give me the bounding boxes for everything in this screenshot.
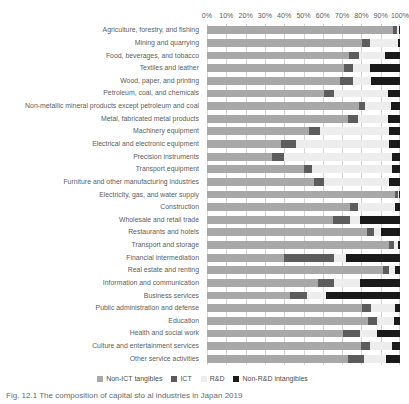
bar-segment — [371, 304, 395, 312]
legend-swatch-icon — [233, 376, 239, 382]
bar-segment — [362, 39, 370, 47]
category-label: Culture and entertainment services — [92, 342, 199, 350]
category-label: Furniture and other manufacturing indust… — [63, 178, 199, 186]
bar-row — [207, 77, 400, 85]
bar-row — [207, 216, 400, 224]
category-label: Textiles and leather — [140, 64, 199, 72]
bar-row — [207, 127, 400, 135]
bar-row — [207, 279, 400, 287]
stacked-bar — [207, 64, 400, 72]
bar-segment — [395, 203, 400, 211]
legend-item[interactable]: R&D — [201, 375, 225, 383]
bar-segment — [284, 254, 334, 262]
category-label: Electrical and electronic equipment — [92, 140, 199, 148]
bar-row — [207, 26, 400, 34]
bar-segment — [362, 304, 371, 312]
bar-row — [207, 115, 400, 123]
bar-segment — [324, 178, 390, 186]
legend-item[interactable]: ICT — [171, 375, 191, 383]
plot-area — [207, 24, 400, 365]
bar-segment — [349, 52, 360, 60]
legend-label: ICT — [180, 375, 191, 383]
bar-segment — [395, 266, 400, 274]
bar-segment — [359, 52, 384, 60]
stacked-bar — [207, 317, 400, 325]
bar-row — [207, 254, 400, 262]
stacked-bar — [207, 355, 400, 363]
category-label: Wholesale and retail trade — [119, 216, 199, 224]
bar-row — [207, 317, 400, 325]
bar-row — [207, 266, 400, 274]
bar-segment — [348, 115, 358, 123]
legend-swatch-icon — [201, 376, 207, 382]
bar-segment — [377, 330, 400, 338]
bar-segment — [385, 52, 400, 60]
bar-segment — [207, 39, 362, 47]
bar-segment — [365, 102, 391, 110]
stacked-bar — [207, 165, 400, 173]
bar-segment — [207, 241, 389, 249]
category-label: Metal, fabricated metal products — [101, 115, 199, 123]
category-label: Machinery equipment — [133, 127, 199, 135]
bar-segment — [392, 165, 400, 173]
bar-segment — [392, 153, 400, 161]
legend-label: Non-ICT tangibles — [106, 375, 162, 383]
bar-segment — [399, 26, 400, 34]
bar-segment — [348, 355, 364, 363]
legend-item[interactable]: Non-R&D intangibles — [233, 375, 307, 383]
bar-segment — [374, 228, 381, 236]
bar-segment — [304, 165, 312, 173]
bar-segment — [207, 330, 343, 338]
bar-segment — [371, 77, 400, 85]
stacked-bar — [207, 216, 400, 224]
stacked-bar — [207, 90, 400, 98]
bar-segment — [364, 355, 386, 363]
bar-segment — [360, 330, 376, 338]
bar-segment — [207, 115, 348, 123]
bar-segment — [324, 90, 335, 98]
legend-swatch-icon — [171, 376, 177, 382]
bar-segment — [361, 342, 370, 350]
category-label: Education — [168, 317, 199, 325]
bar-segment — [284, 153, 392, 161]
stacked-bar — [207, 241, 400, 249]
bar-segment — [207, 228, 367, 236]
x-tick-label: 0% — [202, 12, 212, 21]
stacked-bar — [207, 153, 400, 161]
bar-segment — [398, 241, 400, 249]
bar-segment — [367, 228, 374, 236]
x-axis-tick-labels: 0%10%20%30%40%50%60%70%80%90%100% — [207, 12, 400, 23]
bar-segment — [296, 140, 390, 148]
bar-segment — [389, 140, 400, 148]
x-tick-label: 30% — [258, 12, 272, 21]
bar-segment — [207, 279, 318, 287]
stacked-bar — [207, 228, 400, 236]
x-tick-label: 40% — [277, 12, 291, 21]
stacked-bar — [207, 77, 400, 85]
bar-segment — [398, 39, 400, 47]
bar-row — [207, 342, 400, 350]
stacked-bar — [207, 39, 400, 47]
bar-segment — [326, 292, 400, 300]
bar-segment — [281, 140, 295, 148]
bar-segment — [309, 127, 320, 135]
stacked-bar — [207, 254, 400, 262]
stacked-bar — [207, 342, 400, 350]
bar-segment — [368, 317, 377, 325]
bar-segment — [318, 279, 334, 287]
stacked-bar — [207, 178, 400, 186]
bar-segment — [340, 77, 353, 85]
chart-legend: Non-ICT tangiblesICTR&DNon-R&D intangibl… — [0, 372, 405, 386]
stacked-bar — [207, 330, 400, 338]
legend-item[interactable]: Non-ICT tangibles — [97, 375, 162, 383]
x-tick-label: 90% — [374, 12, 388, 21]
stacked-bar — [207, 26, 400, 34]
bar-segment — [207, 127, 309, 135]
bar-segment — [381, 228, 400, 236]
bar-segment — [207, 140, 281, 148]
bar-segment — [389, 127, 400, 135]
bar-segment — [358, 203, 395, 211]
bar-segment — [314, 178, 324, 186]
bar-segment — [353, 64, 370, 72]
